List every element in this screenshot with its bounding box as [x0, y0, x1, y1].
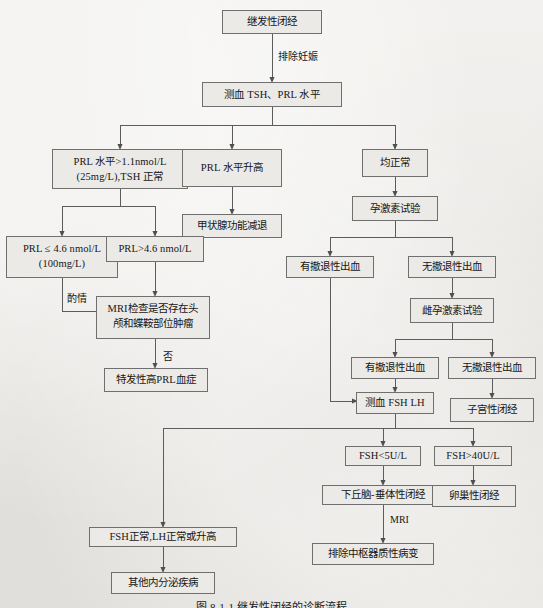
node-withdrawal-bleed-yes-1-label: 有撤退性出血: [300, 259, 361, 274]
edge-label-exclude-pregnancy: 排除妊娠: [278, 48, 318, 63]
edge-label-as-appropriate: 酌情: [67, 290, 87, 305]
node-hypothyroidism[interactable]: 甲状腺功能减退: [182, 214, 282, 238]
node-other-endocrine[interactable]: 其他内分泌疾病: [111, 572, 215, 594]
node-withdrawal-bleed-no-2-label: 无撤退性出血: [462, 360, 523, 375]
node-hypothalamic-pituitary[interactable]: 下丘脑-垂体性闭经: [322, 485, 444, 505]
node-fsh-low[interactable]: FSH<5U/L: [345, 446, 421, 466]
node-fsh-normal-lh[interactable]: FSH正常,LH正常或升高: [89, 527, 237, 547]
node-prl-gt[interactable]: PRL>4.6 nmol/L: [106, 236, 204, 262]
node-start[interactable]: 继发性闭经: [222, 10, 322, 34]
node-other-endocrine-label: 其他内分泌疾病: [128, 575, 199, 590]
node-withdrawal-bleed-yes-2[interactable]: 有撤退性出血: [351, 357, 439, 379]
node-measure-fsh-lh[interactable]: 测血 FSH LH: [356, 392, 434, 414]
node-prl-elevated[interactable]: PRL 水平升高: [182, 149, 282, 187]
node-fsh-normal-lh-label: FSH正常,LH正常或升高: [109, 529, 216, 544]
node-idiopathic-prl[interactable]: 特发性高PRL血症: [104, 368, 208, 392]
node-prl-le-line1: PRL ≤ 4.6 nmol/L: [10, 241, 114, 256]
node-estrogen-progesterone-test[interactable]: 雌孕激素试验: [410, 298, 494, 323]
node-progesterone-test-label: 孕激素试验: [370, 201, 421, 216]
node-uterine-amenorrhea[interactable]: 子宫性闭经: [450, 398, 534, 422]
node-prl-le[interactable]: PRL ≤ 4.6 nmol/L (100mg/L): [6, 236, 118, 278]
node-withdrawal-bleed-no-1-label: 无撤退性出血: [422, 259, 483, 274]
node-exclude-central-lesion-label: 排除中枢器质性病变: [328, 546, 419, 561]
node-prl-gt-label: PRL>4.6 nmol/L: [118, 241, 191, 256]
node-ovarian-amenorrhea[interactable]: 卵巢性闭经: [432, 485, 516, 507]
node-fsh-low-label: FSH<5U/L: [359, 448, 407, 463]
node-exclude-central-lesion[interactable]: 排除中枢器质性病变: [312, 543, 434, 565]
node-mri-check-line1: MRI检查是否存在头: [100, 301, 206, 316]
node-mri-check-line2: 颅和蝶鞍部位肿瘤: [100, 316, 206, 331]
node-hypothyroidism-label: 甲状腺功能减退: [197, 218, 268, 233]
node-withdrawal-bleed-yes-1[interactable]: 有撤退性出血: [286, 256, 374, 278]
node-all-normal-label: 均正常: [380, 155, 410, 170]
node-withdrawal-bleed-no-2[interactable]: 无撤退性出血: [448, 357, 536, 379]
node-prl-high-tsh-normal[interactable]: PRL 水平>1.1nmol/L (25mg/L),TSH 正常: [52, 149, 188, 189]
node-mri-check[interactable]: MRI检查是否存在头 颅和蝶鞍部位肿瘤: [96, 296, 210, 339]
node-fsh-high[interactable]: FSH>40U/L: [434, 446, 512, 466]
node-prl-high-tsh-normal-line1: PRL 水平>1.1nmol/L: [56, 154, 184, 169]
node-estrogen-progesterone-test-label: 雌孕激素试验: [422, 303, 483, 318]
node-uterine-amenorrhea-label: 子宫性闭经: [467, 402, 518, 417]
node-measure-fsh-lh-label: 测血 FSH LH: [365, 395, 424, 410]
node-prl-le-line2: (100mg/L): [10, 256, 114, 271]
node-idiopathic-prl-label: 特发性高PRL血症: [116, 372, 196, 387]
node-start-label: 继发性闭经: [247, 14, 298, 29]
node-withdrawal-bleed-no-1[interactable]: 无撤退性出血: [408, 256, 496, 278]
node-withdrawal-bleed-yes-2-label: 有撤退性出血: [365, 360, 426, 375]
node-blood-test[interactable]: 测血 TSH、PRL 水平: [202, 82, 342, 107]
node-prl-high-tsh-normal-line2: (25mg/L),TSH 正常: [56, 169, 184, 184]
node-ovarian-amenorrhea-label: 卵巢性闭经: [449, 488, 500, 503]
node-hypothalamic-pituitary-label: 下丘脑-垂体性闭经: [341, 487, 425, 502]
node-progesterone-test[interactable]: 孕激素试验: [352, 196, 438, 221]
figure-canvas: 继发性闭经 排除妊娠 测血 TSH、PRL 水平 PRL 水平>1.1nmol/…: [0, 0, 543, 608]
edge-label-no: 否: [163, 348, 173, 363]
figure-caption: 图 8-1-1 继发性闭经的诊断流程: [0, 598, 543, 608]
node-all-normal[interactable]: 均正常: [362, 149, 428, 177]
node-fsh-high-label: FSH>40U/L: [446, 448, 500, 463]
node-blood-test-label: 测血 TSH、PRL 水平: [224, 87, 319, 102]
node-prl-elevated-label: PRL 水平升高: [201, 160, 263, 175]
edge-label-mri: MRI: [390, 514, 409, 525]
